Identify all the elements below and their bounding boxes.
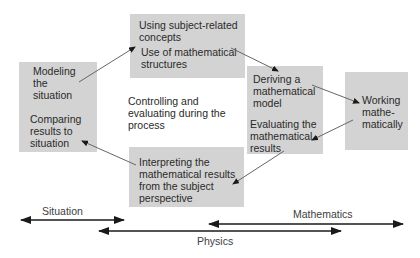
arrows-layer	[0, 0, 420, 258]
range-arrows	[21, 220, 403, 231]
modeling-cycle-diagram: Modeling the situation Comparing results…	[0, 0, 420, 258]
arrow-modeling-to-concepts	[79, 47, 135, 82]
situation-range-label: Situation	[42, 205, 83, 217]
arrow-interpreting-to-comparing	[82, 141, 136, 165]
arrow-working-to-evaluating	[312, 120, 353, 140]
physics-range-label: Physics	[197, 235, 233, 247]
arrow-evaluating-to-interpreting	[233, 151, 284, 184]
flow-arrows	[79, 47, 359, 184]
arrow-deriving-to-working	[312, 85, 359, 103]
mathematics-range-label: Mathematics	[293, 208, 353, 220]
arrow-structures-to-deriving	[231, 48, 278, 71]
